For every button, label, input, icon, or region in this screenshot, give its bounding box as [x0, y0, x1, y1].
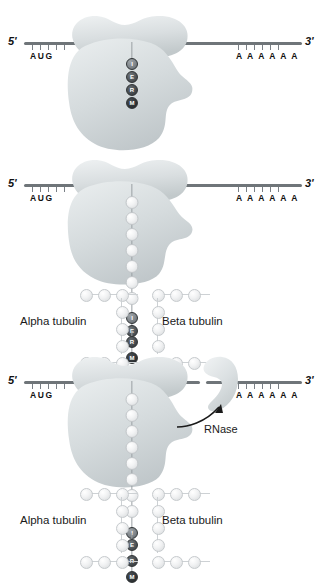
alpha-tubulin-subunit — [98, 488, 111, 501]
alpha-tubulin-subunit — [116, 323, 129, 336]
panel-translation-initiation: 5' 3' AUG A A A A A A — [0, 0, 326, 160]
poly-a-ticks — [238, 384, 286, 389]
beta-tubulin-subunit — [188, 556, 201, 569]
start-codon-label: AUG — [30, 51, 54, 61]
mrna-5prime-label: 5' — [8, 374, 17, 386]
peptide-bead — [126, 441, 139, 454]
alpha-tubulin-subunit — [116, 505, 129, 518]
peptide-residue-M: M — [126, 97, 138, 109]
beta-tubulin-subunit — [152, 488, 165, 501]
beta-tubulin-subunit — [188, 289, 201, 302]
beta-tubulin-subunit — [170, 556, 183, 569]
peptide-bead — [126, 260, 139, 273]
peptide-bead — [126, 393, 139, 406]
peptide-residue-R: R — [126, 84, 138, 96]
panel-1-stage: 5' 3' AUG A A A A A A — [0, 0, 326, 160]
mrna-5prime-label: 5' — [8, 35, 17, 47]
poly-a-ticks — [238, 45, 286, 50]
panel-2-stage: 5' 3' AUG A A A A A A — [0, 160, 326, 345]
peptide-bead — [126, 409, 139, 422]
poly-a-ticks — [238, 187, 286, 192]
peptide-residue-I: I — [126, 58, 138, 70]
poly-a-label: A A A A A A — [236, 51, 299, 61]
mrna-5prime-label: 5' — [8, 177, 17, 189]
nascent-peptide-chain: I E R M — [125, 42, 139, 106]
start-codon-label: AUG — [30, 193, 54, 203]
mrna-3prime-label: 3' — [305, 374, 314, 386]
beta-tubulin-subunit — [170, 289, 183, 302]
start-codon-label: AUG — [30, 390, 54, 400]
alpha-tubulin-subunit — [98, 289, 111, 302]
peptide-bead — [126, 457, 139, 470]
poly-a-label: A A A A A A — [236, 390, 299, 400]
alpha-tubulin-label: Alpha tubulin — [20, 315, 87, 327]
alpha-tubulin-subunit — [116, 539, 129, 552]
beta-tubulin-subunit — [188, 488, 201, 501]
panel-3-stage: 5' 3' AUG A A A A A A — [0, 345, 326, 565]
beta-tubulin-subunit — [152, 289, 165, 302]
beta-tubulin-label: Beta tubulin — [162, 514, 223, 526]
panel-rnase-cleavage: 5' 3' AUG A A A A A A — [0, 345, 326, 565]
beta-tubulin-subunit — [152, 539, 165, 552]
alpha-tubulin-subunit — [116, 522, 129, 535]
panel-tubulin-binding: 5' 3' AUG A A A A A A — [0, 160, 326, 345]
beta-tubulin-label: Beta tubulin — [162, 315, 223, 327]
alpha-tubulin-subunit — [116, 306, 129, 319]
alpha-tubulin-subunit — [98, 556, 111, 569]
beta-tubulin-subunit — [170, 488, 183, 501]
peptide-bead — [126, 244, 139, 257]
alpha-tubulin-subunit — [80, 289, 93, 302]
mrna-3prime-label: 3' — [305, 35, 314, 47]
alpha-tubulin-label: Alpha tubulin — [20, 514, 87, 526]
alpha-tubulin-subunit — [116, 488, 129, 501]
alpha-tubulin-subunit — [80, 488, 93, 501]
alpha-tubulin-subunit — [116, 289, 129, 302]
mrna-3prime-label: 3' — [305, 177, 314, 189]
beta-tubulin-subunit — [152, 556, 165, 569]
poly-a-label: A A A A A A — [236, 193, 299, 203]
peptide-residue-E: E — [126, 71, 138, 83]
peptide-bead — [126, 228, 139, 241]
alpha-tubulin-subunit — [116, 556, 129, 569]
peptide-bead — [126, 473, 139, 486]
alpha-tubulin-subunit — [80, 556, 93, 569]
peptide-bead — [126, 425, 139, 438]
peptide-bead — [126, 196, 139, 209]
rnase-label: RNase — [204, 423, 238, 435]
peptide-bead — [126, 212, 139, 225]
peptide-residue-M: M — [126, 571, 138, 583]
